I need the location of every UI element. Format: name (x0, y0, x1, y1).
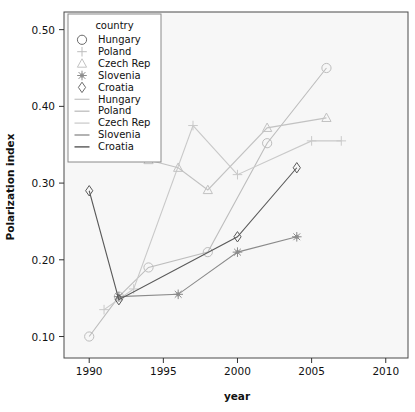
data-point (233, 247, 243, 257)
chart-root: 19901995200020052010 0.100.200.300.400.5… (0, 0, 415, 412)
y-tick-label: 0.30 (32, 177, 55, 189)
legend-entry-label: Hungary (98, 94, 141, 105)
polarization-index-line-chart: 19901995200020052010 0.100.200.300.400.5… (0, 0, 415, 412)
legend-entry-label: Czech Rep (98, 58, 150, 69)
legend-entry-label: Slovenia (98, 129, 141, 140)
legend-title: country (95, 20, 133, 31)
legend-entry-label: Croatia (98, 82, 134, 93)
x-tick-label: 2005 (298, 365, 325, 377)
legend-marker-asterisk (77, 71, 87, 81)
data-point (173, 290, 183, 300)
chart-legend: countryHungaryPolandCzech RepSloveniaCro… (68, 14, 161, 162)
x-tick-label: 1990 (76, 365, 103, 377)
legend-entry-label: Hungary (98, 34, 141, 45)
y-tick-label: 0.20 (32, 254, 55, 266)
legend-entry-label: Czech Rep (98, 117, 150, 128)
y-tick-label: 0.50 (32, 24, 55, 36)
legend-entry-label: Poland (98, 105, 131, 116)
data-point (292, 232, 302, 242)
y-tick-label: 0.10 (32, 331, 55, 343)
x-tick-label: 2010 (372, 365, 399, 377)
y-axis-title: Polarization index (4, 133, 16, 240)
legend-entry-label: Poland (98, 46, 131, 57)
x-tick-label: 2000 (224, 365, 251, 377)
legend-entry-label: Croatia (98, 141, 134, 152)
y-tick-label: 0.40 (32, 100, 55, 112)
legend-entry-label: Slovenia (98, 70, 141, 81)
x-axis-title: year (224, 390, 251, 402)
x-tick-label: 1995 (150, 365, 177, 377)
